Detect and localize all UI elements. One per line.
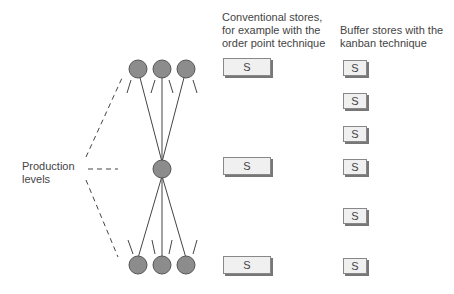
buffer-store-2: S — [343, 93, 367, 109]
buffer-store-6: S — [343, 258, 367, 274]
conventional-store-2: S — [223, 157, 271, 175]
buffer-stores-header: Buffer stores with the kanban technique — [340, 24, 450, 50]
conventional-store-3: S — [223, 256, 271, 274]
node-bottom-1 — [129, 256, 147, 274]
node-top-2 — [153, 60, 171, 78]
node-top-3 — [177, 60, 195, 78]
buffer-store-4: S — [343, 159, 367, 175]
node-top-1 — [129, 60, 147, 78]
conventional-store-1: S — [223, 58, 271, 76]
production-levels-label: Production levels — [22, 160, 92, 186]
buffer-store-5: S — [343, 208, 367, 224]
node-bottom-2 — [153, 256, 171, 274]
conventional-stores-header: Conventional stores, for example with th… — [222, 11, 332, 50]
buffer-store-3: S — [343, 126, 367, 142]
buffer-store-1: S — [343, 60, 367, 76]
node-bottom-3 — [177, 256, 195, 274]
node-middle — [153, 160, 171, 178]
